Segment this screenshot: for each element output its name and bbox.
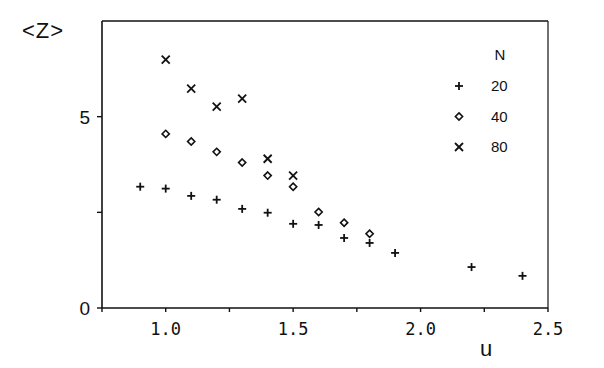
plus-marker-icon bbox=[264, 209, 272, 217]
series-N80 bbox=[162, 56, 297, 180]
legend-label: 40 bbox=[491, 108, 508, 125]
plus-marker-icon bbox=[455, 82, 463, 90]
plus-marker-icon bbox=[340, 234, 348, 242]
legend: N204080 bbox=[455, 46, 508, 155]
plus-marker-icon bbox=[187, 192, 195, 200]
cross-marker-icon bbox=[162, 56, 170, 64]
legend-label: 80 bbox=[491, 138, 508, 155]
legend-entry: 40 bbox=[455, 108, 507, 125]
diamond-marker-icon bbox=[188, 138, 195, 145]
x-tick-label: 2.0 bbox=[405, 319, 436, 339]
cross-marker-icon bbox=[455, 143, 463, 151]
plus-marker-icon bbox=[468, 263, 476, 271]
scatter-plot: 1.01.52.02.5 05 N204080 bbox=[0, 0, 604, 368]
plus-marker-icon bbox=[289, 220, 297, 228]
legend-entry: 80 bbox=[455, 138, 508, 155]
diamond-marker-icon bbox=[239, 159, 246, 166]
cross-marker-icon bbox=[238, 95, 246, 103]
y-tick-label: 0 bbox=[79, 298, 90, 319]
diamond-marker-icon bbox=[366, 230, 373, 237]
plus-marker-icon bbox=[315, 221, 323, 229]
diamond-marker-icon bbox=[162, 130, 169, 137]
legend-entry: 20 bbox=[455, 77, 508, 94]
cross-marker-icon bbox=[213, 103, 221, 111]
legend-title: N bbox=[495, 46, 506, 63]
plus-marker-icon bbox=[238, 205, 246, 213]
legend-label: 20 bbox=[491, 77, 508, 94]
plus-marker-icon bbox=[391, 249, 399, 257]
cross-marker-icon bbox=[264, 155, 272, 163]
x-axis-ticks: 1.01.52.02.5 bbox=[102, 308, 563, 339]
plus-marker-icon bbox=[213, 196, 221, 204]
plus-marker-icon bbox=[162, 185, 170, 193]
diamond-marker-icon bbox=[264, 172, 271, 179]
diamond-marker-icon bbox=[455, 113, 462, 120]
x-tick-label: 1.5 bbox=[278, 319, 309, 339]
x-tick-label: 2.5 bbox=[533, 319, 564, 339]
y-tick-label: 5 bbox=[79, 107, 90, 128]
diamond-marker-icon bbox=[213, 148, 220, 155]
cross-marker-icon bbox=[187, 85, 195, 93]
plus-marker-icon bbox=[136, 183, 144, 191]
x-tick-label: 1.0 bbox=[150, 319, 181, 339]
diamond-marker-icon bbox=[290, 183, 297, 190]
cross-marker-icon bbox=[289, 172, 297, 180]
y-axis-ticks: 05 bbox=[79, 107, 102, 319]
plus-marker-icon bbox=[519, 272, 527, 280]
series-N40 bbox=[162, 130, 373, 237]
data-points bbox=[136, 56, 526, 280]
diamond-marker-icon bbox=[341, 219, 348, 226]
diamond-marker-icon bbox=[315, 208, 322, 215]
plus-marker-icon bbox=[366, 239, 374, 247]
series-N20 bbox=[136, 183, 526, 280]
